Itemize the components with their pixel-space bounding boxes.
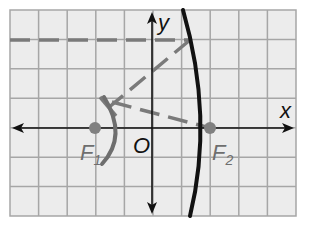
origin-label: O: [133, 133, 150, 158]
hyperbola-diagram: y x O F1 F2: [0, 0, 312, 229]
focus-point-f2: [204, 122, 216, 134]
focus-point-f1: [89, 122, 101, 134]
y-axis-label: y: [156, 10, 171, 35]
x-axis-label: x: [279, 98, 292, 123]
